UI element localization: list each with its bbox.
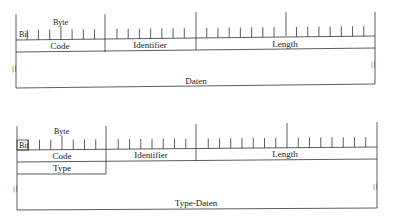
break-mark-right-icon: // xyxy=(371,181,380,192)
diagram-1: Bit Byte Code Identifier Length Daten //… xyxy=(10,12,378,88)
bit-ruler xyxy=(17,122,377,210)
break-mark-right-icon: // xyxy=(369,59,378,70)
bit-label: Bit xyxy=(19,141,30,150)
type-data-field: Type-Daten xyxy=(175,198,218,208)
code-field: Code xyxy=(51,41,70,51)
byte-label: Byte xyxy=(54,127,70,136)
length-field: Length xyxy=(272,39,298,49)
break-mark-left-icon: // xyxy=(10,63,19,74)
diagram-2: Bit Byte Code Identifier Length Type Typ… xyxy=(11,122,380,210)
identifier-field: Identifier xyxy=(134,150,167,160)
length-field: Length xyxy=(272,149,298,159)
byte-label: Byte xyxy=(53,18,69,27)
bit-label: Bit xyxy=(19,30,30,39)
break-mark-left-icon: // xyxy=(11,183,20,194)
identifier-field: Identifier xyxy=(133,40,166,50)
data-field: Daten xyxy=(185,76,207,86)
type-field: Type xyxy=(53,163,71,173)
packet-format-diagrams: Bit Byte Code Identifier Length Daten //… xyxy=(0,0,396,224)
code-field: Code xyxy=(53,151,72,161)
